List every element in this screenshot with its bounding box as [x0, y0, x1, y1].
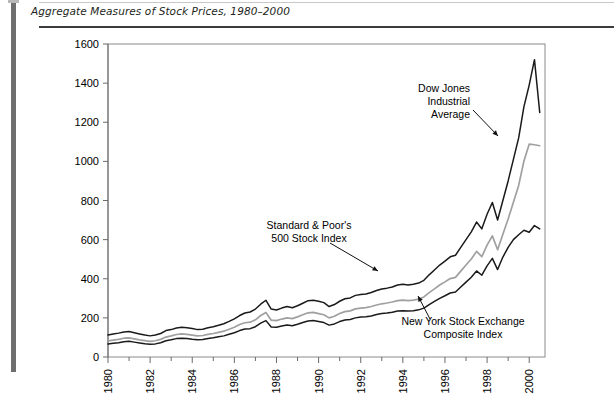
x-tick-label: 1980: [102, 369, 114, 393]
y-tick-label: 1000: [75, 155, 99, 167]
y-axis-tick-labels: 02004006008001000120014001600: [75, 38, 99, 363]
x-tick-label: 1986: [228, 369, 240, 393]
plot-area-border: [108, 44, 545, 357]
annotation-text: Dow Jones: [418, 82, 470, 94]
x-tick-label: 1984: [186, 369, 198, 393]
x-tick-label: 1988: [270, 369, 282, 393]
y-tick-label: 1400: [75, 77, 99, 89]
x-tick-label: 1996: [439, 369, 451, 393]
x-tick-label: 1990: [313, 369, 325, 393]
annotation-text: New York Stock Exchange: [401, 315, 524, 327]
y-tick-label: 600: [81, 234, 99, 246]
y-tick-label: 200: [81, 312, 99, 324]
x-tick-label: 2000: [523, 369, 535, 393]
y-tick-label: 400: [81, 273, 99, 285]
y-axis-ticks: [103, 44, 108, 357]
y-tick-label: 0: [93, 351, 99, 363]
x-axis-tick-labels: 1980198219841986198819901992199419961998…: [102, 369, 535, 393]
annotation-text: Composite Index: [424, 328, 504, 340]
annotation-text: Industrial: [427, 95, 470, 107]
x-tick-label: 1982: [144, 369, 156, 393]
x-tick-label: 1994: [397, 369, 409, 393]
y-tick-label: 1200: [75, 116, 99, 128]
annotation-text: Average: [431, 108, 470, 120]
x-tick-label: 1992: [355, 369, 367, 393]
plot-frame: [108, 44, 545, 357]
y-tick-label: 1600: [75, 38, 99, 50]
annotation-text: Standard & Poor's: [267, 219, 352, 231]
x-tick-label: 1998: [481, 369, 493, 393]
annotation-text: 500 Stock Index: [271, 232, 347, 244]
y-tick-label: 800: [81, 195, 99, 207]
x-axis-ticks: [108, 357, 529, 363]
